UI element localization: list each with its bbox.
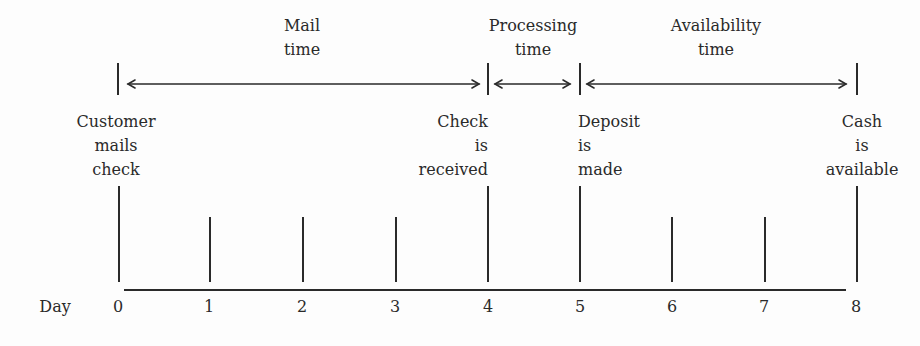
day-label-6: 6 xyxy=(667,297,677,316)
day-label-2: 2 xyxy=(297,297,307,316)
event-label-line: received xyxy=(419,158,488,182)
tick-day-8 xyxy=(856,186,858,282)
tick-day-0 xyxy=(118,186,120,282)
event-label-line: Check xyxy=(419,110,488,134)
event-label-line: is xyxy=(826,134,899,158)
event-label-line: Cash xyxy=(826,110,899,134)
tick-day-7 xyxy=(764,217,766,282)
tick-day-6 xyxy=(671,217,673,282)
day-label-3: 3 xyxy=(390,297,400,316)
event-label-line: is xyxy=(419,134,488,158)
event-label-line: check xyxy=(76,158,155,182)
tick-day-2 xyxy=(302,217,304,282)
event-label-cash-is-available: Cash is available xyxy=(826,110,899,182)
availability-time-arrow-icon xyxy=(587,80,846,88)
day-label-5: 5 xyxy=(575,297,585,316)
event-label-line: Customer xyxy=(76,110,155,134)
mail-time-arrow-icon xyxy=(128,80,479,88)
timeline-baseline xyxy=(124,289,846,291)
tick-day-1 xyxy=(209,217,211,282)
day-label-7: 7 xyxy=(759,297,769,316)
axis-label-day: Day xyxy=(39,297,70,316)
day-label-1: 1 xyxy=(204,297,214,316)
event-label-line: Deposit xyxy=(578,110,640,134)
event-label-line: mails xyxy=(76,134,155,158)
event-label-customer-mails-check: Customer mails check xyxy=(76,110,155,182)
day-label-0: 0 xyxy=(113,297,123,316)
event-label-check-is-received: Check is received xyxy=(419,110,488,182)
processing-time-arrow-icon xyxy=(495,80,570,88)
event-label-line: available xyxy=(826,158,899,182)
event-label-line: made xyxy=(578,158,640,182)
event-label-line: is xyxy=(578,134,640,158)
day-label-4: 4 xyxy=(483,297,493,316)
day-label-8: 8 xyxy=(851,297,861,316)
tick-day-5 xyxy=(579,186,581,282)
event-label-deposit-is-made: Deposit is made xyxy=(578,110,640,182)
tick-day-3 xyxy=(395,217,397,282)
tick-day-4 xyxy=(487,186,489,282)
